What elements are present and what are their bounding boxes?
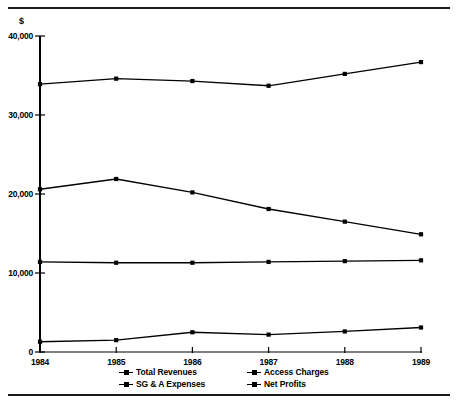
legend-label: SG & A Expenses — [134, 379, 205, 389]
legend-marker-icon — [118, 379, 134, 389]
legend-label: Total Revenues — [134, 367, 197, 377]
legend-marker-icon — [118, 367, 134, 377]
legend-marker-icon — [246, 367, 262, 377]
y-axis-tick-label: 10,000 — [0, 268, 33, 278]
y-axis-tick-label: 30,000 — [0, 110, 33, 120]
legend-item-access-charges: Access Charges — [246, 367, 396, 377]
legend-item-total-revenues: Total Revenues — [118, 367, 246, 377]
legend-label: Net Profits — [262, 379, 306, 389]
legend-row-2: SG & A Expenses Net Profits — [118, 378, 418, 390]
legend-item-sga-expenses: SG & A Expenses — [118, 379, 246, 389]
legend-label: Access Charges — [262, 367, 329, 377]
x-axis-tick-label: 1984 — [20, 357, 60, 367]
y-axis-tick-label: 20,000 — [0, 189, 33, 199]
legend-row-1: Total Revenues Access Charges — [118, 366, 418, 378]
chart-legend: Total Revenues Access Charges SG & A Exp… — [118, 366, 418, 390]
legend-item-net-profits: Net Profits — [246, 379, 396, 389]
chart-figure: $ 010,00020,00030,00040,000 198419851986… — [0, 0, 458, 403]
legend-marker-icon — [246, 379, 262, 389]
line-chart-plot — [0, 0, 458, 403]
y-axis-tick-label: 40,000 — [0, 31, 33, 41]
y-axis-tick-label: 0 — [0, 347, 33, 357]
